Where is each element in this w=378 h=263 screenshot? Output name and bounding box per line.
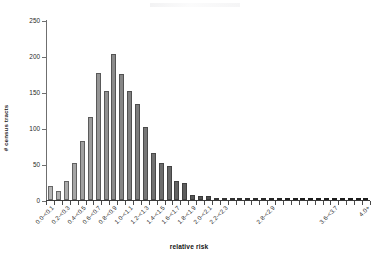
y-axis-tick <box>42 165 46 166</box>
bar <box>285 198 290 200</box>
bar <box>80 141 85 200</box>
y-axis-tick <box>42 21 46 22</box>
bar <box>308 198 313 200</box>
y-axis-title-text: # census tracts <box>2 68 9 188</box>
bar-slot <box>362 20 370 200</box>
bar-slot <box>236 20 244 200</box>
bar-slot <box>252 20 260 200</box>
bar <box>104 91 109 200</box>
bar <box>214 198 219 200</box>
bar <box>72 163 77 200</box>
bar <box>324 198 329 200</box>
bar-slot <box>338 20 346 200</box>
bar <box>222 198 227 200</box>
bar-slot <box>323 20 331 200</box>
y-axis-tick <box>42 129 46 130</box>
x-axis-title: relative risk <box>0 243 378 250</box>
bar <box>340 198 345 200</box>
bar <box>111 54 116 200</box>
scan-artifact <box>150 3 240 7</box>
bar-slot <box>173 20 181 200</box>
y-axis-tick <box>42 93 46 94</box>
bar <box>300 198 305 200</box>
bar <box>206 196 211 200</box>
bar-slot <box>142 20 150 200</box>
bar <box>56 191 61 200</box>
bar-slot <box>71 20 79 200</box>
bar-slot <box>79 20 87 200</box>
bar-slot <box>63 20 71 200</box>
bar <box>151 153 156 200</box>
bar-slot <box>205 20 213 200</box>
bar <box>190 195 195 200</box>
bar <box>332 198 337 200</box>
bar-slot <box>102 20 110 200</box>
bar-slot <box>268 20 276 200</box>
bar-slot <box>55 20 63 200</box>
bar-slot <box>165 20 173 200</box>
bar <box>316 198 321 200</box>
bar-slot <box>315 20 323 200</box>
bar-slot <box>134 20 142 200</box>
bar-slot <box>86 20 94 200</box>
bar <box>348 198 353 200</box>
bar <box>119 74 124 200</box>
bar <box>88 117 93 200</box>
y-axis-tick-label: 250 <box>20 17 40 24</box>
x-axis-tick <box>370 201 371 205</box>
bar-slot <box>244 20 252 200</box>
bar <box>64 181 69 200</box>
bar <box>48 186 53 200</box>
bar <box>277 198 282 200</box>
bar <box>253 198 258 200</box>
y-axis-title: # census tracts <box>2 0 9 68</box>
bar-slot <box>275 20 283 200</box>
bar <box>237 198 242 200</box>
y-axis-tick-label: 100 <box>20 125 40 132</box>
bar-slot <box>110 20 118 200</box>
bar-slot <box>189 20 197 200</box>
bar-slot <box>354 20 362 200</box>
x-axis-tick-label: 4.0+ <box>357 204 371 218</box>
bar-slot <box>149 20 157 200</box>
y-axis-tick-label: 50 <box>20 161 40 168</box>
bar-slot <box>299 20 307 200</box>
y-axis-tick <box>42 57 46 58</box>
x-axis-tick-label: 3.6-<3.7 <box>318 204 339 225</box>
bar-slot <box>220 20 228 200</box>
histogram-chart: # census tracts 050100150200250 0.0-<0.1… <box>0 0 378 263</box>
bar-series <box>47 20 370 200</box>
bar <box>293 198 298 200</box>
bar <box>198 196 203 200</box>
bar-slot <box>157 20 165 200</box>
bar <box>230 198 235 200</box>
bar <box>363 198 368 200</box>
x-axis-tick-labels: 0.0-<0.10.2-<0.30.4-<0.50.6-<0.70.8-<0.9… <box>46 204 370 244</box>
bar-slot <box>228 20 236 200</box>
bar-slot <box>291 20 299 200</box>
bar <box>159 163 164 200</box>
bar <box>182 183 187 200</box>
bar <box>143 127 148 200</box>
bar-slot <box>346 20 354 200</box>
bar <box>96 73 101 200</box>
bar-slot <box>260 20 268 200</box>
bar-slot <box>197 20 205 200</box>
bar-slot <box>181 20 189 200</box>
bar <box>127 91 132 200</box>
bar <box>167 166 172 200</box>
bar <box>261 198 266 200</box>
y-axis-tick-label: 0 <box>20 197 40 204</box>
bar-slot <box>307 20 315 200</box>
y-axis-tick-label: 200 <box>20 53 40 60</box>
bar-slot <box>118 20 126 200</box>
bar <box>135 104 140 200</box>
bar-slot <box>126 20 134 200</box>
bar <box>174 181 179 200</box>
bar <box>269 198 274 200</box>
bar-slot <box>283 20 291 200</box>
y-axis-tick-label: 150 <box>20 89 40 96</box>
plot-area: 050100150200250 <box>46 20 370 201</box>
bar-slot <box>212 20 220 200</box>
bar <box>356 198 361 200</box>
